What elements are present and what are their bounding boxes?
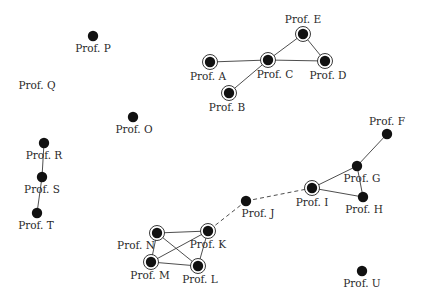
node-label: Prof. O — [115, 123, 153, 135]
node-label: Prof. L — [182, 273, 218, 285]
node-prof-f — [382, 129, 392, 139]
node-prof-l — [191, 259, 206, 274]
node-label: Prof. U — [343, 277, 381, 289]
node-label: Prof. K — [190, 238, 227, 250]
node-label: Prof. T — [18, 219, 54, 231]
node-dot — [298, 29, 308, 39]
network-diagram: Prof. AProf. BProf. CProf. DProf. EProf.… — [0, 0, 422, 306]
node-dot — [128, 112, 138, 122]
node-dot — [146, 257, 156, 267]
node-dot — [205, 57, 215, 67]
node-prof-r — [39, 138, 49, 148]
node-prof-o — [128, 112, 138, 122]
edge-c-d — [268, 60, 325, 61]
node-label: Prof. C — [257, 68, 294, 80]
node-dot — [263, 55, 273, 65]
node-dot — [224, 88, 234, 98]
graph-canvas: Prof. AProf. BProf. CProf. DProf. EProf.… — [0, 0, 422, 306]
node-prof-h — [358, 192, 368, 202]
node-prof-g — [352, 161, 362, 171]
node-label: Prof. G — [344, 172, 381, 184]
node-dot — [39, 138, 49, 148]
node-prof-a — [203, 55, 218, 70]
node-label: Prof. D — [309, 69, 346, 81]
node-dot — [88, 31, 98, 41]
node-label: Prof. N — [117, 239, 155, 251]
node-dot — [382, 129, 392, 139]
node-prof-t — [32, 208, 42, 218]
node-prof-c — [261, 53, 276, 68]
node-prof-s — [37, 172, 47, 182]
node-prof-u — [357, 266, 367, 276]
node-dot — [203, 226, 213, 236]
node-label: Prof. E — [285, 13, 321, 25]
node-dot — [193, 261, 203, 271]
node-label: Prof. S — [24, 183, 60, 195]
node-label: Prof. A — [190, 70, 227, 82]
node-label: Prof. P — [75, 42, 111, 54]
node-dot — [320, 56, 330, 66]
node-dot — [32, 208, 42, 218]
node-dot — [358, 192, 368, 202]
node-label: Prof. I — [296, 196, 329, 208]
node-label: Prof. F — [369, 115, 405, 127]
node-label: Prof. Q — [18, 79, 56, 91]
node-prof-p — [88, 31, 98, 41]
node-prof-i — [305, 181, 320, 196]
node-prof-m — [144, 255, 159, 270]
node-label: Prof. R — [26, 149, 64, 161]
node-label: Prof. H — [345, 203, 383, 215]
node-prof-b — [222, 86, 237, 101]
node-label: Prof. M — [130, 269, 170, 281]
edge-f-g — [357, 134, 387, 166]
node-label: Prof. B — [209, 101, 246, 113]
node-dot — [37, 172, 47, 182]
node-prof-k — [201, 224, 216, 239]
node-dot — [241, 196, 251, 206]
node-label: Prof. J — [242, 207, 275, 219]
node-dot — [307, 183, 317, 193]
node-prof-d — [318, 54, 333, 69]
node-prof-e — [296, 27, 311, 42]
node-dot — [152, 228, 162, 238]
node-dot — [357, 266, 367, 276]
edge-a-c — [210, 60, 268, 62]
node-dot — [352, 161, 362, 171]
node-prof-j — [241, 196, 251, 206]
